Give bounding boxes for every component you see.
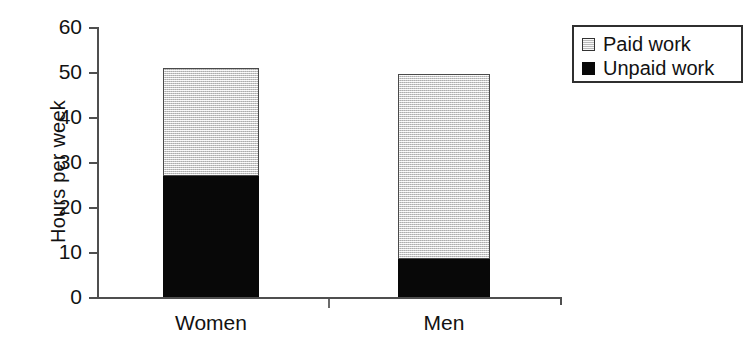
y-tick-mark-50 xyxy=(89,72,98,74)
bar-segment-women-paid xyxy=(163,68,259,176)
stacked-bar-chart: Hours per week 60 50 40 30 20 10 0 xyxy=(0,0,750,352)
y-tick-label-50: 50 xyxy=(36,61,82,82)
y-tick-label-20: 20 xyxy=(36,196,82,217)
bar-stack-men xyxy=(398,74,490,298)
x-axis-category-divider-tick xyxy=(328,299,330,308)
y-tick-group-50: 50 xyxy=(0,72,98,74)
chart-legend: Paid work Unpaid work xyxy=(572,25,743,83)
legend-label-unpaid-work: Unpaid work xyxy=(603,57,714,79)
y-tick-mark-20 xyxy=(89,207,98,209)
y-tick-label-60: 60 xyxy=(36,16,82,37)
legend-item-paid-work: Paid work xyxy=(582,32,741,56)
paid-swatch-icon xyxy=(582,38,595,51)
bar-segment-women-unpaid xyxy=(163,176,259,298)
y-tick-group-0: 0 xyxy=(0,297,98,299)
bar-segment-men-paid xyxy=(398,74,490,258)
y-tick-group-20: 20 xyxy=(0,207,98,209)
y-tick-label-30: 30 xyxy=(36,151,82,172)
unpaid-swatch-icon xyxy=(582,62,595,75)
y-tick-group-10: 10 xyxy=(0,252,98,254)
x-axis-end-tick xyxy=(560,297,562,305)
y-tick-label-10: 10 xyxy=(36,241,82,262)
bar-stack-women xyxy=(163,68,259,298)
y-tick-group-40: 40 xyxy=(0,117,98,119)
legend-label-paid-work: Paid work xyxy=(603,33,691,55)
y-tick-group-60: 60 xyxy=(0,27,98,29)
y-tick-label-0: 0 xyxy=(36,286,82,307)
bar-segment-men-unpaid xyxy=(398,259,490,298)
legend-item-unpaid-work: Unpaid work xyxy=(582,56,741,80)
y-tick-mark-10 xyxy=(89,252,98,254)
y-tick-group-30: 30 xyxy=(0,162,98,164)
y-tick-mark-60 xyxy=(89,27,98,29)
x-category-label-women: Women xyxy=(151,311,271,335)
y-tick-mark-30 xyxy=(89,162,98,164)
y-tick-mark-40 xyxy=(89,117,98,119)
x-category-label-men: Men xyxy=(389,311,499,335)
y-tick-label-40: 40 xyxy=(36,106,82,127)
